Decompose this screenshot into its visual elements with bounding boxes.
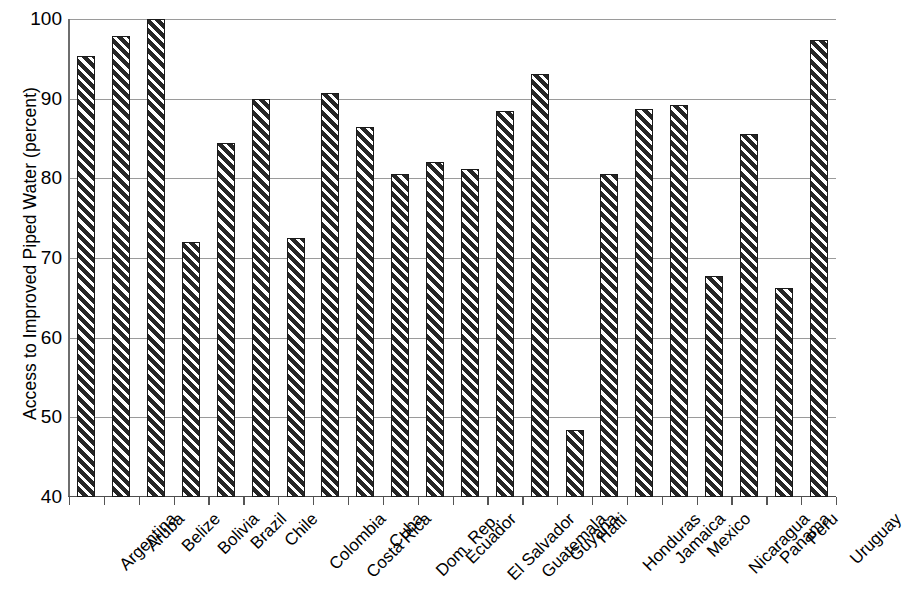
x-tick-label: Uruguay [846, 510, 904, 568]
x-tick-label: Chile [281, 510, 321, 550]
x-tick-label: Aruba [144, 510, 189, 555]
x-tick-mark [836, 497, 837, 505]
